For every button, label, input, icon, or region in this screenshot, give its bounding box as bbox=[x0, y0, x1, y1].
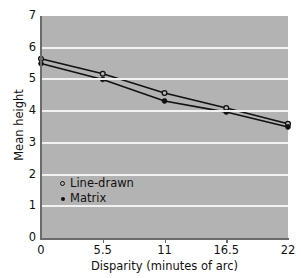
data-point-marker bbox=[286, 125, 291, 130]
data-point-marker bbox=[162, 91, 167, 96]
legend-label-matrix: Matrix bbox=[70, 191, 106, 206]
legend-item-line-drawn: Line-drawn bbox=[60, 176, 134, 191]
gridline bbox=[41, 142, 288, 144]
x-tick-label: 22 bbox=[281, 245, 296, 257]
x-tick-label: 5.5 bbox=[94, 245, 112, 257]
x-axis-title: Disparity (minutes of arc) bbox=[41, 259, 288, 273]
legend-item-matrix: Matrix bbox=[60, 191, 134, 206]
open-circle-icon bbox=[60, 181, 65, 186]
y-tick-label: 2 bbox=[6, 169, 36, 181]
y-tick-label: 1 bbox=[6, 201, 36, 213]
y-tick-label: 0 bbox=[6, 232, 36, 244]
legend-label-line-drawn: Line-drawn bbox=[70, 176, 134, 191]
y-tick-label: 7 bbox=[6, 10, 36, 22]
x-tick-mark bbox=[165, 239, 167, 243]
y-axis-line bbox=[40, 16, 42, 239]
chart-figure: 01234567 05.51116.522 Mean height Dispar… bbox=[0, 0, 301, 278]
x-tick-label: 11 bbox=[157, 245, 172, 257]
gridline bbox=[41, 110, 288, 112]
x-tick-mark bbox=[103, 239, 105, 243]
x-tick-label: 0 bbox=[37, 245, 44, 257]
data-point-marker bbox=[162, 99, 167, 104]
filled-circle-icon bbox=[61, 197, 65, 201]
chart-legend: Line-drawn Matrix bbox=[60, 176, 134, 206]
x-tick-label: 16.5 bbox=[213, 245, 239, 257]
x-tick-mark bbox=[226, 239, 228, 243]
gridline bbox=[41, 78, 288, 80]
gridline bbox=[41, 47, 288, 49]
y-axis-title: Mean height bbox=[12, 80, 26, 170]
y-tick-label: 6 bbox=[6, 42, 36, 54]
data-point-marker bbox=[100, 71, 105, 76]
